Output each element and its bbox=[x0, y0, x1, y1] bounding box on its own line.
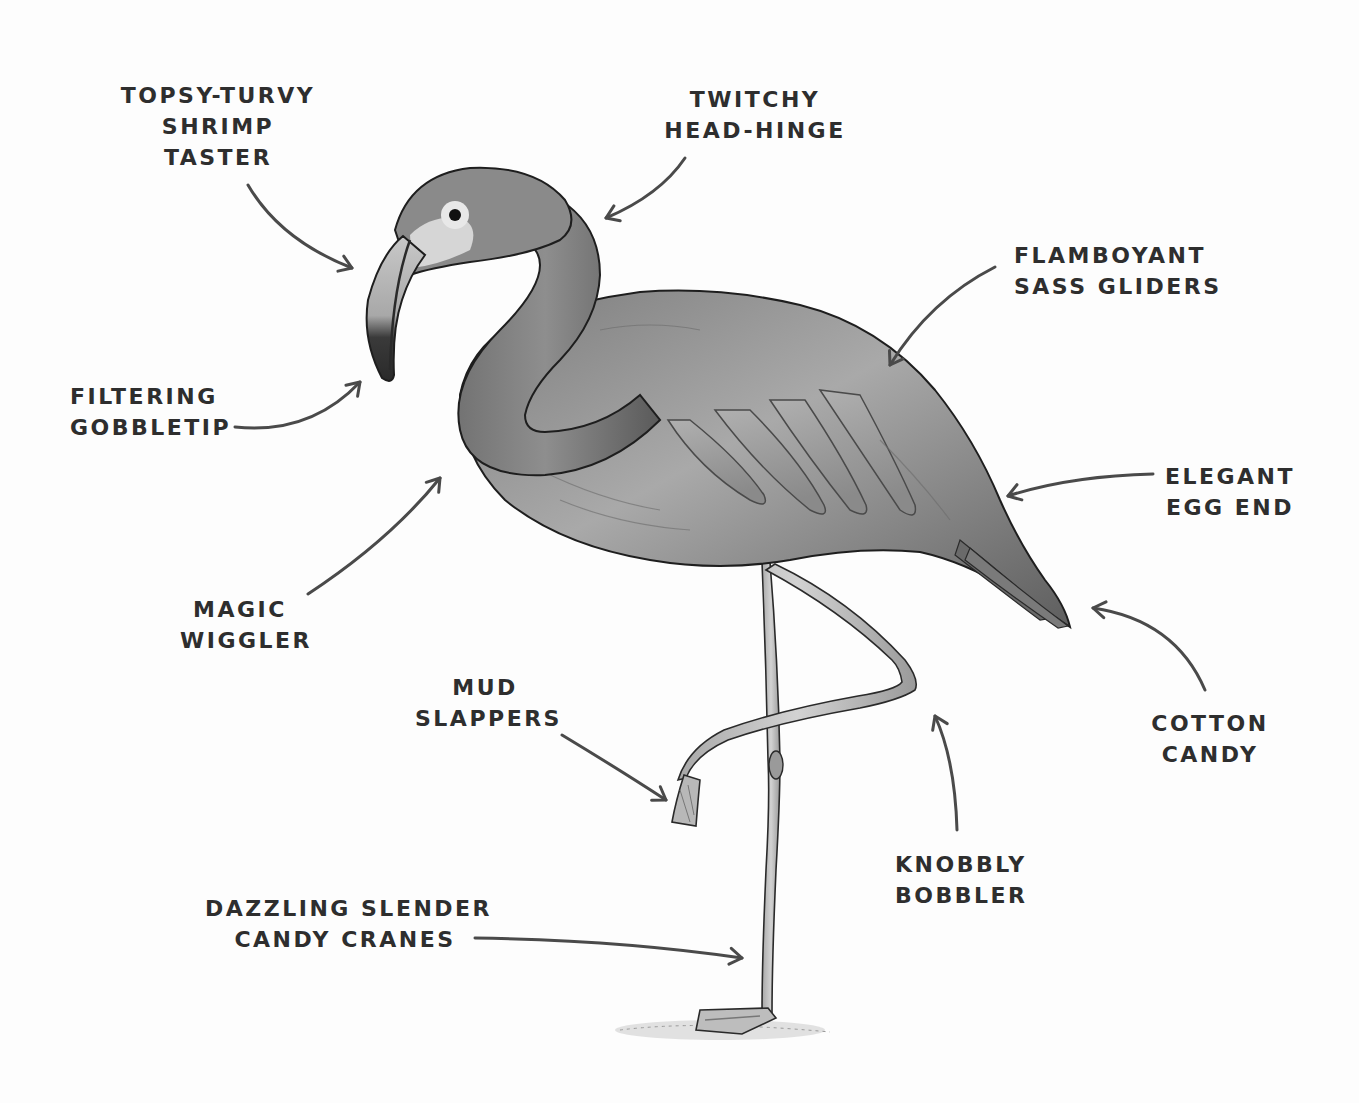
arrow-mud-slappers bbox=[562, 735, 666, 800]
label-head-hinge: TWITCHY HEAD-HINGE bbox=[655, 84, 855, 146]
eye bbox=[449, 209, 461, 221]
label-candy-cranes: DAZZLING SLENDER CANDY CRANES bbox=[205, 893, 485, 955]
arrow-cotton-candy bbox=[1093, 608, 1205, 690]
arrow-sass-gliders bbox=[890, 267, 995, 365]
label-knobbly-bobbler: KNOBBLY BOBBLER bbox=[895, 849, 1025, 911]
arrow-knobbly-bobbler bbox=[935, 716, 957, 830]
label-mud-slappers: MUD SLAPPERS bbox=[415, 672, 555, 734]
label-gobbletip: FILTERING GOBBLETIP bbox=[70, 381, 231, 443]
label-magic-wiggler: MAGIC WIGGLER bbox=[180, 594, 300, 656]
label-cotton-candy: COTTON CANDY bbox=[1150, 708, 1270, 770]
standing-leg bbox=[696, 562, 783, 1034]
arrow-egg-end bbox=[1008, 474, 1153, 496]
label-shrimp-taster: TOPSY-TURVY SHRIMP TASTER bbox=[108, 80, 328, 173]
arrow-gobbletip bbox=[235, 382, 360, 428]
arrow-candy-cranes bbox=[475, 938, 742, 958]
arrow-head-hinge bbox=[606, 158, 685, 218]
beak bbox=[367, 236, 425, 381]
label-sass-gliders: FLAMBOYANT SASS GLIDERS bbox=[1014, 240, 1222, 302]
flamingo-diagram: TOPSY-TURVY SHRIMP TASTER TWITCHY HEAD-H… bbox=[0, 0, 1359, 1103]
arrow-shrimp-taster bbox=[248, 185, 352, 268]
arrow-magic-wiggler bbox=[308, 478, 440, 594]
label-egg-end: ELEGANT EGG END bbox=[1160, 461, 1300, 523]
raised-leg bbox=[672, 564, 916, 826]
